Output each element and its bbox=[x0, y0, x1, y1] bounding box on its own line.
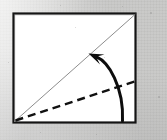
origami-diagram bbox=[0, 0, 167, 140]
origami-figure bbox=[0, 0, 167, 140]
